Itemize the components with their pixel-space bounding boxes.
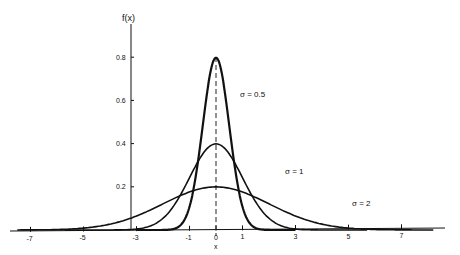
- x-axis-title: x: [214, 243, 218, 250]
- y-tick-label: 0.2: [116, 183, 126, 190]
- y-axis-title: f(x): [122, 13, 135, 23]
- x-tick-label: -3: [133, 234, 139, 241]
- x-tick-label: 3: [294, 233, 298, 240]
- x-tick-label: 1: [241, 233, 245, 240]
- y-tick-label: 0.4: [116, 140, 126, 147]
- label-sigma-1: σ = 1: [285, 167, 304, 176]
- x-axis-ticks: -7-5-3-101357: [27, 224, 404, 242]
- x-tick-label: -1: [186, 234, 192, 241]
- y-tick-label: 0.6: [116, 97, 126, 104]
- label-sigma-0-5: σ = 0.5: [240, 90, 266, 99]
- x-tick-label: 7: [400, 232, 404, 239]
- x-tick-label: -5: [80, 234, 86, 241]
- curve-sigma-2: [17, 187, 433, 230]
- x-tick-label: -7: [27, 235, 33, 242]
- label-sigma-2: σ = 2: [352, 199, 371, 208]
- y-tick-label: 0.8: [116, 54, 126, 61]
- x-tick-label: 5: [347, 233, 351, 240]
- normal-distribution-chart: f(x) 0.20.40.60.8 -7-5-3-101357 x σ = 0.…: [0, 0, 460, 255]
